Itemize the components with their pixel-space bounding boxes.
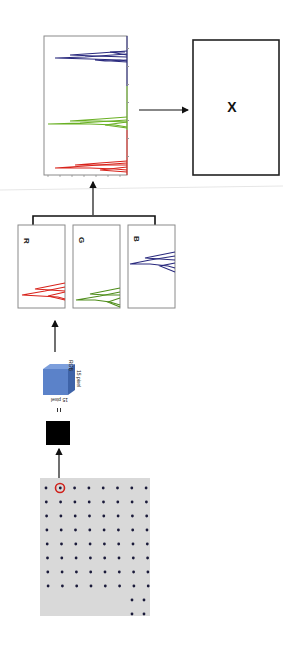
histogram-r: R — [18, 225, 65, 308]
concatenated-histogram — [44, 36, 129, 177]
bracket — [33, 216, 155, 225]
cube-bottom-label: 15 pixel — [51, 397, 68, 403]
image-grid — [40, 478, 150, 616]
output-box: X — [193, 40, 279, 175]
label-r: R — [22, 238, 31, 244]
pipeline-diagram: X R G B — [0, 0, 283, 653]
histogram-b: B — [128, 225, 175, 308]
cube-top-label: RGB — [68, 360, 74, 372]
output-label: X — [227, 99, 237, 115]
separator-line — [0, 186, 283, 190]
histogram-g: G — [73, 225, 120, 308]
cube-side-label: 15 pixel — [76, 370, 82, 387]
equals-sign — [57, 408, 61, 412]
label-g: G — [77, 237, 86, 243]
pixel-patch — [46, 421, 70, 445]
label-b: B — [132, 236, 141, 242]
rgb-cube: RGB 15 pixel 15 pixel — [43, 360, 82, 403]
